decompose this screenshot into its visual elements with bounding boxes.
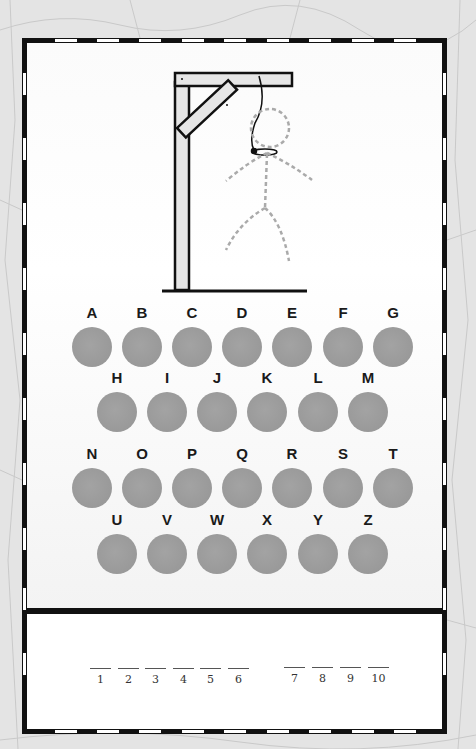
letter-label: C bbox=[172, 303, 212, 323]
game-card: A B C D E F G H I J K L M N O P Q R S T … bbox=[22, 38, 447, 734]
letter-key-q[interactable]: Q bbox=[222, 444, 262, 508]
slot-number: 3 bbox=[145, 673, 166, 686]
letter-button[interactable] bbox=[97, 534, 137, 574]
letter-label: G bbox=[373, 303, 413, 323]
slot-number: 6 bbox=[228, 673, 249, 686]
answer-slot-7: 7 bbox=[284, 667, 305, 685]
letter-label: O bbox=[122, 444, 162, 464]
letter-button[interactable] bbox=[197, 534, 237, 574]
slot-number: 10 bbox=[368, 672, 389, 685]
letter-button[interactable] bbox=[97, 392, 137, 432]
slot-number: 4 bbox=[173, 673, 194, 686]
answer-slot-3: 3 bbox=[145, 668, 166, 686]
answer-slot-1: 1 bbox=[90, 668, 111, 686]
letter-label: A bbox=[72, 303, 112, 323]
gallows-icon bbox=[162, 73, 307, 291]
letter-label: Y bbox=[298, 510, 338, 530]
letter-key-o[interactable]: O bbox=[122, 444, 162, 508]
letter-key-l[interactable]: L bbox=[298, 368, 338, 432]
letter-label: H bbox=[97, 368, 137, 388]
letter-label: P bbox=[172, 444, 212, 464]
letter-button[interactable] bbox=[122, 327, 162, 367]
answer-slot-5: 5 bbox=[200, 668, 221, 686]
letter-key-b[interactable]: B bbox=[122, 303, 162, 367]
letter-key-u[interactable]: U bbox=[97, 510, 137, 574]
letter-label: K bbox=[247, 368, 287, 388]
letter-key-d[interactable]: D bbox=[222, 303, 262, 367]
slot-number: 1 bbox=[90, 673, 111, 686]
letter-label: V bbox=[147, 510, 187, 530]
letter-label: Z bbox=[348, 510, 388, 530]
hangman-drawing bbox=[27, 43, 442, 303]
letter-key-v[interactable]: V bbox=[147, 510, 187, 574]
letter-key-x[interactable]: X bbox=[247, 510, 287, 574]
letter-label: B bbox=[122, 303, 162, 323]
letter-button[interactable] bbox=[172, 468, 212, 508]
letter-key-t[interactable]: T bbox=[373, 444, 413, 508]
answer-slot-4: 4 bbox=[173, 668, 194, 686]
letter-button[interactable] bbox=[222, 327, 262, 367]
slot-number: 7 bbox=[284, 672, 305, 685]
letter-button[interactable] bbox=[348, 534, 388, 574]
letter-key-z[interactable]: Z bbox=[348, 510, 388, 574]
letter-key-r[interactable]: R bbox=[272, 444, 312, 508]
letter-key-c[interactable]: C bbox=[172, 303, 212, 367]
letter-key-k[interactable]: K bbox=[247, 368, 287, 432]
letter-key-g[interactable]: G bbox=[373, 303, 413, 367]
letter-label: E bbox=[272, 303, 312, 323]
letter-button[interactable] bbox=[247, 534, 287, 574]
letter-button[interactable] bbox=[373, 468, 413, 508]
letter-key-e[interactable]: E bbox=[272, 303, 312, 367]
letter-button[interactable] bbox=[298, 392, 338, 432]
letter-key-y[interactable]: Y bbox=[298, 510, 338, 574]
letter-button[interactable] bbox=[298, 534, 338, 574]
stick-figure-icon bbox=[226, 109, 312, 261]
slot-number: 5 bbox=[200, 673, 221, 686]
slot-number: 8 bbox=[312, 672, 333, 685]
letter-button[interactable] bbox=[147, 534, 187, 574]
letter-label: X bbox=[247, 510, 287, 530]
letter-key-f[interactable]: F bbox=[323, 303, 363, 367]
letter-button[interactable] bbox=[222, 468, 262, 508]
letter-label: D bbox=[222, 303, 262, 323]
letter-key-p[interactable]: P bbox=[172, 444, 212, 508]
letter-label: I bbox=[147, 368, 187, 388]
letter-label: R bbox=[272, 444, 312, 464]
letter-key-m[interactable]: M bbox=[348, 368, 388, 432]
letter-button[interactable] bbox=[323, 327, 363, 367]
slot-number: 2 bbox=[118, 673, 139, 686]
letter-button[interactable] bbox=[373, 327, 413, 367]
letter-label: S bbox=[323, 444, 363, 464]
letter-key-h[interactable]: H bbox=[97, 368, 137, 432]
game-panel: A B C D E F G H I J K L M N O P Q R S T … bbox=[27, 43, 442, 612]
letter-button[interactable] bbox=[247, 392, 287, 432]
letter-key-i[interactable]: I bbox=[147, 368, 187, 432]
answer-slot-6: 6 bbox=[228, 668, 249, 686]
letter-key-a[interactable]: A bbox=[72, 303, 112, 367]
answer-slot-8: 8 bbox=[312, 667, 333, 685]
letter-button[interactable] bbox=[147, 392, 187, 432]
letter-key-j[interactable]: J bbox=[197, 368, 237, 432]
letter-button[interactable] bbox=[272, 327, 312, 367]
letter-button[interactable] bbox=[323, 468, 363, 508]
letter-button[interactable] bbox=[172, 327, 212, 367]
letter-button[interactable] bbox=[122, 468, 162, 508]
letter-label: F bbox=[323, 303, 363, 323]
letter-label: U bbox=[97, 510, 137, 530]
letter-button[interactable] bbox=[72, 468, 112, 508]
letter-label: T bbox=[373, 444, 413, 464]
letter-label: L bbox=[298, 368, 338, 388]
letter-button[interactable] bbox=[197, 392, 237, 432]
letter-key-w[interactable]: W bbox=[197, 510, 237, 574]
letter-key-s[interactable]: S bbox=[323, 444, 363, 508]
letter-button[interactable] bbox=[272, 468, 312, 508]
letter-label: W bbox=[197, 510, 237, 530]
letter-button[interactable] bbox=[348, 392, 388, 432]
letter-label: J bbox=[197, 368, 237, 388]
letter-label: Q bbox=[222, 444, 262, 464]
letter-label: M bbox=[348, 368, 388, 388]
letter-button[interactable] bbox=[72, 327, 112, 367]
letter-label: N bbox=[72, 444, 112, 464]
letter-key-n[interactable]: N bbox=[72, 444, 112, 508]
slot-number: 9 bbox=[340, 672, 361, 685]
